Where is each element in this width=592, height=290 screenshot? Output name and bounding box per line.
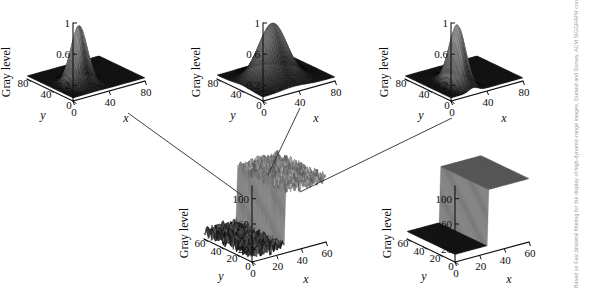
z-axis-label: Gray level: [177, 207, 191, 258]
y-axis-label: y: [217, 269, 224, 283]
z-tick-label: 20: [238, 243, 250, 255]
x-tick-label: 0: [261, 106, 267, 118]
z-tick-label: 1: [443, 17, 449, 29]
plot-top-left: 04080040800.20.61Gray levelxy: [0, 17, 152, 125]
x-tick-label: 20: [475, 260, 487, 272]
z-axis-label: Gray level: [0, 46, 13, 97]
y-axis-label: y: [229, 108, 236, 122]
y-tick-label: 0: [66, 99, 72, 111]
x-axis-label: x: [312, 111, 319, 125]
z-axis-label: Gray level: [377, 46, 391, 97]
y-tick-label: 40: [211, 245, 223, 257]
plot-top-right: 04080040800.20.61Gray levelxy: [377, 17, 530, 125]
y-tick-label: 60: [195, 237, 207, 249]
plot-bottom-right: 020406002040602060100Gray levelxy: [380, 156, 536, 286]
z-tick-label: 20: [441, 243, 453, 255]
y-axis-label: y: [420, 269, 427, 283]
figure-panel: 04080040800.20.61Gray levelxy04080040800…: [0, 0, 592, 290]
z-tick-label: 1: [65, 17, 71, 29]
y-tick-label: 60: [398, 237, 410, 249]
copyright-watermark: Based on Fast bilateral filtering for th…: [565, 0, 591, 290]
connector-from-top-right: [300, 118, 452, 192]
y-tick-label: 0: [256, 99, 262, 111]
x-tick-label: 40: [297, 254, 309, 266]
x-tick-label: 0: [449, 106, 455, 118]
y-tick-label: 0: [448, 260, 454, 272]
y-tick-label: 40: [231, 88, 243, 100]
connector-from-top-left: [128, 113, 243, 196]
y-tick-label: 0: [245, 260, 251, 272]
z-tick-label: 0.2: [246, 79, 260, 91]
y-tick-label: 40: [41, 88, 53, 100]
surface-mesh: [407, 156, 529, 255]
x-axis-label: x: [505, 272, 512, 286]
x-tick-label: 0: [453, 267, 459, 279]
y-tick-label: 80: [208, 77, 220, 89]
y-tick-label: 20: [227, 252, 239, 264]
y-tick-label: 40: [419, 88, 431, 100]
x-tick-label: 80: [141, 86, 153, 98]
x-tick-label: 40: [105, 96, 117, 108]
x-tick-label: 0: [71, 106, 77, 118]
x-tick-label: 40: [483, 96, 495, 108]
x-tick-label: 0: [250, 267, 256, 279]
x-tick-label: 20: [272, 260, 284, 272]
surface-plots-canvas: 04080040800.20.61Gray levelxy04080040800…: [0, 0, 592, 290]
x-tick-label: 60: [525, 247, 537, 259]
surface-mesh: [204, 150, 326, 257]
y-axis-label: y: [417, 108, 424, 122]
plot-bottom-left: 020406002040602060100Gray levelxy: [177, 150, 333, 286]
z-tick-label: 100: [436, 193, 453, 205]
y-tick-label: 40: [414, 245, 426, 257]
z-axis-label: Gray level: [189, 46, 203, 97]
z-tick-label: 0.6: [434, 48, 448, 60]
y-axis-label: y: [39, 108, 46, 122]
x-tick-label: 40: [295, 96, 307, 108]
z-tick-label: 60: [238, 218, 250, 230]
z-tick-label: 0.2: [56, 79, 70, 91]
z-tick-label: 0.2: [434, 79, 448, 91]
watermark-text: Based on Fast bilateral filtering for th…: [573, 2, 579, 288]
z-tick-label: 60: [441, 218, 453, 230]
x-tick-label: 40: [500, 254, 512, 266]
z-tick-label: 1: [255, 17, 261, 29]
z-axis-label: Gray level: [380, 207, 394, 258]
y-tick-label: 20: [430, 252, 442, 264]
y-tick-label: 80: [396, 77, 408, 89]
y-tick-label: 80: [18, 77, 30, 89]
z-tick-label: 0.6: [56, 48, 70, 60]
plot-top-middle: 04080040800.20.61Gray levelxy: [189, 17, 342, 125]
y-tick-label: 0: [444, 99, 450, 111]
x-axis-label: x: [500, 111, 507, 125]
x-axis-label: x: [302, 272, 309, 286]
z-tick-label: 0.6: [246, 48, 260, 60]
x-tick-label: 60: [322, 247, 334, 259]
x-tick-label: 80: [519, 86, 531, 98]
x-tick-label: 80: [331, 86, 343, 98]
